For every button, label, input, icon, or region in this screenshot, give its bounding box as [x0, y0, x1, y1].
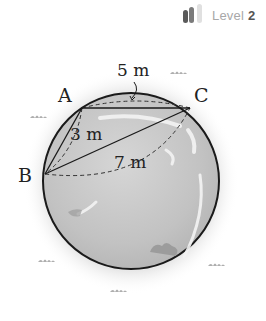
point-label-A: A	[57, 84, 72, 106]
point-label-B: B	[18, 164, 32, 186]
measure-label-AC: 5 m	[117, 60, 149, 80]
point-label-C: C	[194, 84, 209, 106]
measure-label-AB: 3 m	[70, 124, 102, 144]
pond-diagram: A C B 5 m 3 m 7 m	[0, 0, 266, 321]
pond-circle	[43, 93, 219, 269]
measure-label-BC: 7 m	[114, 152, 146, 172]
